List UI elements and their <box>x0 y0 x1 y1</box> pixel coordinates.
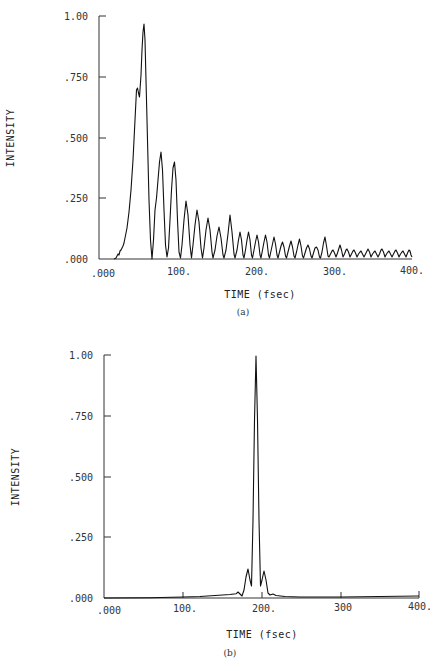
figure: INTENSITY 1.00 .750 .500 .250 .000 .000 … <box>0 0 440 671</box>
y-tick-label: .750 <box>64 72 88 83</box>
y-ticks-b: 1.00 .750 .500 .250 .000 <box>69 350 111 604</box>
y-tick-label: 1.00 <box>69 350 93 361</box>
y-tick-label: .000 <box>64 254 88 265</box>
y-tick-label: .250 <box>69 532 93 543</box>
x-axis-title-b: TIME (fsec) <box>226 629 298 640</box>
y-tick-label: .250 <box>64 193 88 204</box>
x-tick-label: .000 <box>97 605 121 616</box>
x-tick-label: 200. <box>252 603 276 614</box>
x-axis-title-a: TIME (fsec) <box>224 289 296 300</box>
y-tick-label: 1.00 <box>64 11 88 22</box>
x-tick-label: 200. <box>245 266 269 277</box>
x-tick-label: 100. <box>167 266 191 277</box>
x-ticks-a: .000 100. 200. 300. 400. <box>91 265 424 279</box>
x-tick-label: 100. <box>173 603 197 614</box>
y-ticks-a: 1.00 .750 .500 .250 .000 <box>64 11 106 265</box>
intensity-trace-b <box>104 356 419 598</box>
panel-caption-a: (a) <box>237 307 249 317</box>
intensity-trace-a <box>114 24 412 259</box>
x-ticks-b: .000 100. 200. 300 400. <box>97 591 432 616</box>
x-tick-label: .000 <box>91 268 115 279</box>
y-tick-label: .500 <box>69 472 93 483</box>
panel-caption-b: (b) <box>224 648 237 658</box>
x-tick-label: 400. <box>400 265 424 276</box>
y-tick-label: .750 <box>69 411 93 422</box>
x-tick-label: 300. <box>323 266 347 277</box>
y-tick-label: .000 <box>69 593 93 604</box>
y-axis-title-a: INTENSITY <box>5 109 16 168</box>
y-tick-label: .500 <box>64 133 88 144</box>
x-tick-label: 400. <box>408 601 432 612</box>
chart-panel-a: INTENSITY 1.00 .750 .500 .250 .000 .000 … <box>5 11 424 317</box>
chart-panel-b: INTENSITY 1.00 .750 .500 .250 .000 .000 … <box>10 350 432 658</box>
x-tick-label: 300 <box>334 602 352 613</box>
y-axis-title-b: INTENSITY <box>10 448 21 507</box>
